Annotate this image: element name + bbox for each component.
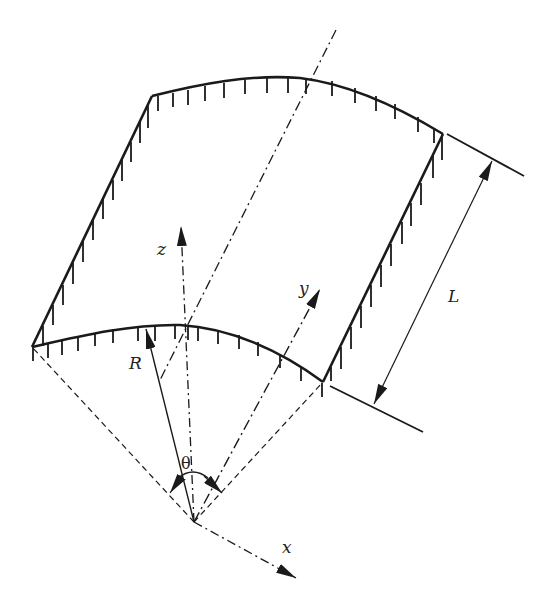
center-axis (160, 30, 336, 380)
angle-label: θ (181, 454, 191, 473)
dimension-arrow (433, 161, 492, 282)
radius-arrow (146, 329, 194, 522)
extension-line-top (447, 134, 524, 176)
support-hatch-marks (33, 78, 442, 397)
y-axis-label: y (298, 278, 309, 298)
z-axis-label: z (156, 239, 167, 259)
extension-line-bottom (330, 386, 423, 432)
x-axis-label: x (282, 537, 292, 557)
length-dimension (330, 134, 524, 432)
dashed-radial-lines (32, 347, 323, 522)
dimension-arrow (374, 282, 433, 404)
radius-label: R (128, 353, 142, 373)
bottom-curved-edge (32, 325, 323, 382)
left-straight-edge (32, 96, 152, 347)
angle-arc (170, 0, 222, 493)
y-axis (194, 289, 320, 522)
shell-panel-diagram: z y x R θ L (0, 0, 550, 598)
right-straight-edge (323, 134, 443, 382)
length-label: L (447, 286, 459, 306)
x-axis (194, 522, 296, 578)
